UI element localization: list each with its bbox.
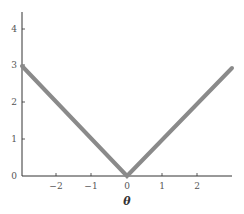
chart: 0 1 2 3 4 −2 −1 0 1 2 θ	[0, 0, 244, 214]
y-tick-label: 4	[11, 24, 17, 34]
x-tick-label: −1	[84, 181, 97, 191]
x-tick-label: −2	[49, 181, 62, 191]
x-tick-label: 1	[159, 181, 165, 191]
y-tick-label: 1	[11, 134, 17, 144]
x-tick-label: 0	[124, 181, 130, 191]
y-ticks: 0 1 2 3 4	[11, 24, 25, 181]
y-tick-label: 3	[11, 60, 17, 70]
x-tick-label: 2	[194, 181, 200, 191]
y-tick-label: 0	[11, 171, 17, 181]
y-tick-label: 2	[11, 97, 17, 107]
abs-theta-line	[22, 66, 232, 176]
x-axis-label: θ	[123, 195, 131, 208]
